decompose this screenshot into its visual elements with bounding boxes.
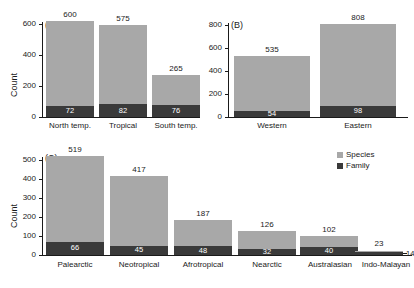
panel-c-ytick-300: 300: [12, 194, 36, 202]
panel-a-bar-south-temp: 265 76: [152, 75, 200, 117]
bar-total-label: 535: [234, 46, 310, 54]
bar-family-label: 76: [152, 107, 200, 115]
panel-a: Count 0 200 400 600 (A) 600 72 575 82 26…: [0, 12, 200, 140]
panel-b-ytick-400: 400: [198, 67, 222, 75]
panel-a-x-axis: [42, 117, 200, 118]
panel-c-catlabel-neotropical: Neotropical: [108, 260, 170, 269]
bar-total-label: 23: [355, 240, 403, 248]
bar-segment-species: [320, 24, 396, 117]
bar-segment-species: [234, 56, 310, 118]
panel-b-catlabel-eastern: Eastern: [320, 121, 396, 130]
panel-c-ytick-0: 0: [12, 251, 36, 259]
panel-c-catlabel-nearctic: Nearctic: [238, 260, 296, 269]
panel-b-bar-eastern: 808 98: [320, 24, 396, 117]
panel-c-catlabel-australasian: Australasian: [298, 260, 362, 269]
panel-b-bar-western: 535 54: [234, 56, 310, 118]
bar-family-label: 45: [110, 246, 168, 254]
panel-c-catlabel-indo-malayan: Indo-Malayan: [360, 260, 412, 269]
bar-family-label: 98: [320, 107, 396, 115]
panel-c-ytick-100: 100: [12, 232, 36, 240]
panel-c-ytick-200: 200: [12, 213, 36, 221]
panel-c-bar-indo-malayan: 23: [355, 251, 403, 255]
panel-c-catlabel-palearctic: Palearctic: [46, 260, 104, 269]
bar-segment-species: [46, 21, 94, 117]
bar-family-label: 72: [46, 107, 94, 115]
panel-a-bar-north-temp: 600 72: [46, 21, 94, 117]
bar-family-label: 40: [300, 247, 358, 255]
panel-b-ytick-0: 0: [198, 113, 222, 121]
panel-a-bar-tropical: 575 82: [99, 25, 147, 117]
bar-total-label: 575: [99, 15, 147, 23]
panel-c-bar-palearctic: 519 66: [46, 156, 104, 255]
bar-total-label: 808: [320, 14, 396, 22]
bar-family-label: 48: [174, 247, 232, 255]
panel-c-y-axis: [42, 157, 43, 256]
panel-a-catlabel-north-temp: North temp.: [46, 121, 94, 130]
panel-b-tag: (B): [231, 21, 243, 30]
panel-c: Count 0 100 200 300 400 500 (C) 519 66 4…: [0, 140, 412, 288]
bar-total-label: 519: [46, 146, 104, 154]
bar-segment-species: [110, 176, 168, 255]
bar-family-label: 54: [234, 110, 310, 118]
panel-b-catlabel-western: Western: [234, 121, 310, 130]
bar-total-label: 265: [152, 65, 200, 73]
panel-a-ytick-600: 600: [12, 20, 36, 28]
panel-c-bar-afrotropical: 187 48: [174, 220, 232, 256]
bar-total-label: 187: [174, 210, 232, 218]
panel-c-annotation-indo-malayan-family: 14: [406, 250, 414, 258]
panel-a-ytick-0: 0: [12, 113, 36, 121]
panel-a-catlabel-south-temp: South temp.: [150, 121, 202, 130]
panel-c-bar-australasian: 102 40: [300, 236, 358, 255]
panel-c-bar-nearctic: 126 32: [238, 231, 296, 255]
panel-a-ytick-400: 400: [12, 51, 36, 59]
bar-family-label: 82: [99, 107, 147, 115]
panel-b-y-axis: [228, 23, 229, 118]
bar-family-label: 32: [238, 248, 296, 256]
bar-segment-species: [46, 156, 104, 255]
panel-a-catlabel-tropical: Tropical: [99, 121, 147, 130]
panel-a-y-axis: [42, 22, 43, 118]
panel-c-ytick-400: 400: [12, 175, 36, 183]
bar-total-label: 417: [110, 166, 168, 174]
bar-family-label: 66: [46, 244, 104, 252]
panel-b-ytick-600: 600: [198, 44, 222, 52]
panel-c-bar-neotropical: 417 45: [110, 176, 168, 255]
bar-total-label: 600: [46, 11, 94, 19]
panel-b-ytick-800: 800: [198, 21, 222, 29]
bar-total-label: 102: [300, 226, 358, 234]
bar-segment-family: [355, 252, 403, 255]
panel-c-ytick-500: 500: [12, 156, 36, 164]
panel-b-ytick-200: 200: [198, 90, 222, 98]
bar-total-label: 126: [238, 221, 296, 229]
panel-c-catlabel-afrotropical: Afrotropical: [173, 260, 233, 269]
panel-b: 0 200 400 600 800 (B) 535 54 808 98 West…: [198, 12, 412, 140]
panel-a-ytick-200: 200: [12, 82, 36, 90]
